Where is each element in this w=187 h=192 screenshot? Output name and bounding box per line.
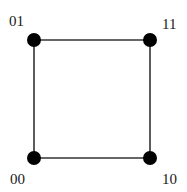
node-label-11: 11 [162, 16, 176, 32]
node-11 [143, 33, 157, 47]
square-graph-diagram: 01 11 00 10 [0, 0, 187, 192]
node-10 [143, 151, 157, 165]
node-01 [27, 33, 41, 47]
node-00 [27, 151, 41, 165]
node-label-01: 01 [9, 13, 24, 29]
nodes [27, 33, 157, 165]
node-label-00: 00 [10, 171, 25, 187]
edges [34, 40, 150, 158]
node-label-10: 10 [162, 171, 177, 187]
